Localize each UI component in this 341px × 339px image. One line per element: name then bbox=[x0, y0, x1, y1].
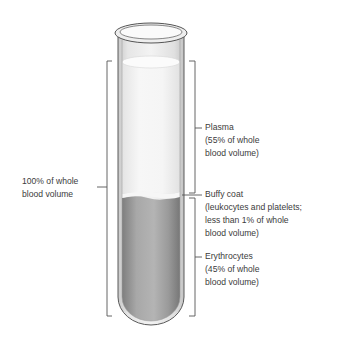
buffy-coat-title: Buffy coat bbox=[205, 188, 302, 201]
plasma-layer bbox=[122, 62, 180, 194]
buffy-coat-label: Buffy coat (leukocytes and platelets; le… bbox=[205, 188, 302, 240]
buffy-coat-line3: blood volume) bbox=[205, 227, 302, 240]
erythrocytes-line2: blood volume) bbox=[205, 276, 259, 289]
plasma-title: Plasma bbox=[205, 121, 259, 134]
erythrocyte-bracket bbox=[189, 198, 195, 316]
whole-blood-line2: blood volume bbox=[22, 188, 78, 201]
buffy-coat-line1: (leukocytes and platelets; bbox=[205, 201, 302, 214]
erythrocytes-title: Erythrocytes bbox=[205, 250, 259, 263]
plasma-line2: blood volume) bbox=[205, 147, 259, 160]
erythrocyte-layer bbox=[122, 196, 180, 321]
whole-blood-label: 100% of whole blood volume bbox=[22, 175, 78, 201]
buffy-coat-line2: less than 1% of whole bbox=[205, 214, 302, 227]
whole-blood-line1: 100% of whole bbox=[22, 175, 78, 188]
plasma-line1: (55% of whole bbox=[205, 134, 259, 147]
plasma-label: Plasma (55% of whole blood volume) bbox=[205, 121, 259, 160]
erythrocytes-line1: (45% of whole bbox=[205, 263, 259, 276]
erythrocytes-label: Erythrocytes (45% of whole blood volume) bbox=[205, 250, 259, 289]
test-tube-figure bbox=[0, 0, 341, 339]
plasma-bracket bbox=[189, 61, 195, 193]
test-tube bbox=[115, 23, 187, 325]
whole-blood-bracket bbox=[107, 61, 112, 316]
